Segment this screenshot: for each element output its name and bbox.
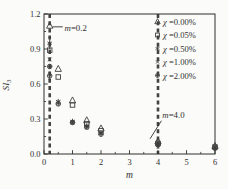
y-tick-label: 0.6	[30, 80, 40, 89]
legend-label: χ =1.00%	[162, 57, 196, 67]
y-tick-label: 0.9	[30, 45, 40, 54]
plot-canvas: 01234560.00.30.60.91.2mSI3m=0.2m=4.0χ =0…	[0, 0, 228, 189]
legend-item: χ =0.50%	[156, 44, 196, 54]
annotation-text: m=0.2	[65, 23, 87, 33]
x-tick-label: 2	[99, 158, 103, 167]
y-tick-label: 0.0	[30, 150, 40, 159]
legend-item: χ =1.00%	[156, 57, 196, 67]
legend-label: χ =0.00%	[162, 17, 196, 27]
annotation-leader-line	[150, 121, 161, 139]
square-marker	[56, 75, 61, 80]
legend: χ =0.00%χ =0.05%χ =0.50%χ =1.00%χ =2.00%	[155, 17, 196, 81]
x-tick-label: 5	[184, 158, 188, 167]
legend-item: χ =0.05%	[156, 30, 196, 40]
y-tick-label: 0.3	[30, 115, 40, 124]
square-marker	[70, 103, 75, 108]
legend-label: χ =0.05%	[162, 30, 196, 40]
x-tick-label: 6	[213, 158, 217, 167]
scatter-figure: 01234560.00.30.60.91.2mSI3m=0.2m=4.0χ =0…	[0, 0, 228, 189]
triangle-marker	[69, 97, 75, 103]
guide-lines	[50, 14, 158, 154]
legend-label: χ =2.00%	[162, 71, 196, 81]
series-0.50	[47, 37, 217, 149]
x-tick-label: 1	[70, 158, 74, 167]
x-tick-label: 4	[156, 158, 161, 167]
triangle-marker	[47, 22, 53, 28]
y-tick-label: 1.2	[30, 10, 40, 19]
legend-item: χ =0.00%	[155, 17, 196, 27]
annotation-text: m=4.0	[162, 110, 185, 120]
series-0.00	[47, 22, 219, 148]
y-axis-label: SI3	[1, 80, 12, 91]
x-axis-label: m	[126, 169, 133, 180]
triangle-marker	[55, 65, 61, 71]
legend-label: χ =0.50%	[162, 44, 196, 54]
x-tick-label: 0	[42, 158, 46, 167]
legend-item: χ =2.00%	[156, 71, 196, 81]
data-points	[47, 22, 219, 150]
x-tick-label: 3	[127, 158, 131, 167]
